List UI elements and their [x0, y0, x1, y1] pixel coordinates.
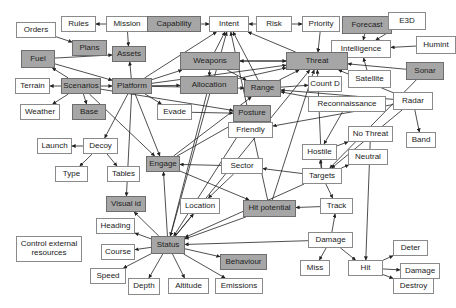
edge-decoy-to-type — [80, 154, 92, 166]
node-sector: Sector — [221, 158, 263, 174]
edge-status-to-visual_id — [134, 212, 159, 236]
edge-track-to-hit_potential — [296, 207, 320, 208]
edge-damage-to-status — [185, 241, 308, 245]
node-emissions: Emissions — [215, 278, 263, 294]
edge-sector-to-engage — [180, 164, 221, 165]
edge-scenarios-to-base — [83, 94, 86, 104]
node-type: Type — [55, 166, 88, 182]
node-status: Status — [151, 236, 185, 254]
node-plans: Plans — [72, 40, 107, 56]
node-hit: Hit — [348, 260, 383, 276]
node-radar: Radar — [393, 92, 433, 110]
edge-platform-to-assets — [130, 62, 132, 78]
edge-status-to-behaviour — [185, 249, 220, 257]
node-band: Band — [406, 132, 436, 148]
edge-status-to-altitude — [173, 254, 185, 278]
edge-hit-to-damage2 — [383, 269, 400, 270]
node-orders: Orders — [16, 22, 56, 38]
node-terrain: Terrain — [15, 78, 50, 94]
node-destroy: Destroy — [393, 278, 434, 294]
edge-targets-to-track — [326, 184, 333, 198]
node-evade: Evade — [157, 104, 192, 120]
node-base: Base — [72, 104, 106, 120]
edge-status-to-heading — [135, 233, 151, 239]
node-rules: Rules — [61, 16, 96, 32]
node-posture: Posture — [233, 105, 271, 122]
edge-hit_potential-to-status — [185, 217, 246, 239]
node-hostile: Hostile — [302, 144, 337, 160]
node-heading: Heading — [96, 218, 135, 234]
node-altitude: Altitude — [168, 278, 209, 294]
edge-satellite-to-intelligence — [364, 58, 367, 70]
node-mission: Mission — [106, 16, 148, 32]
edge-platform-to-decoy — [105, 94, 128, 138]
node-weapons: Weapons — [180, 52, 240, 70]
node-tables: Tables — [107, 166, 140, 182]
node-friendly: Friendly — [228, 122, 273, 138]
node-fuel: Fuel — [21, 50, 55, 68]
edge-status-to-depth — [149, 254, 163, 278]
edge-platform-to-evade — [145, 94, 161, 104]
node-scenarios: Scenarios — [61, 78, 101, 94]
edge-engage-to-hit_potential — [180, 171, 249, 200]
node-capability: Capability — [147, 16, 201, 32]
node-priority: Priority — [302, 16, 340, 32]
edge-reconnaissance-to-range — [281, 92, 308, 97]
node-weather: Weather — [20, 104, 60, 120]
node-damage2: Damage — [400, 263, 440, 279]
edge-priority-to-threat — [318, 32, 320, 52]
node-engage: Engage — [146, 156, 180, 172]
node-course: Course — [101, 244, 135, 260]
edge-humint-to-intelligence — [391, 46, 416, 47]
node-hit-potential: Hit potential — [243, 200, 296, 217]
edge-platform-to-weapons — [152, 70, 182, 80]
edge-reconnaissance-to-hostile — [324, 112, 342, 144]
edge-sonar-to-threat — [348, 64, 406, 69]
node-track: Track — [320, 198, 353, 214]
node-visual-id: Visual id — [106, 196, 146, 212]
node-behaviour: Behaviour — [220, 254, 267, 270]
edge-targets-to-neutral — [341, 165, 348, 168]
node-reconnaissance: Reconnaissance — [308, 96, 386, 112]
node-depth: Depth — [128, 278, 160, 295]
edge-orders-to-plans — [56, 37, 72, 42]
edge-hostile-to-no_threat — [337, 142, 348, 146]
edge-status-to-emissions — [184, 254, 226, 278]
edge-damage-to-hit — [341, 248, 356, 260]
node-control: Control external resources — [16, 236, 82, 262]
node-allocation: Allocation — [180, 76, 238, 94]
edge-range-to-count_d — [281, 85, 308, 87]
node-damage: Damage — [308, 232, 353, 248]
edge-threat-to-intent — [248, 32, 296, 52]
edge-radar-to-band — [415, 110, 420, 132]
node-assets: Assets — [112, 46, 146, 62]
node-threat: Threat — [286, 52, 348, 70]
node-range: Range — [244, 80, 281, 97]
node-satellite: Satellite — [348, 70, 391, 88]
edge-mission-to-assets — [128, 32, 129, 46]
node-speed: Speed — [90, 268, 126, 284]
node-no-threat: No Threat — [348, 126, 393, 142]
node-e3d: E3D — [388, 12, 426, 30]
node-miss: Miss — [300, 260, 330, 276]
node-risk: Risk — [256, 16, 292, 32]
node-forecast: Forecast — [342, 16, 392, 34]
edge-status-to-course — [135, 247, 151, 249]
node-location: Location — [180, 198, 220, 214]
edge-scenarios-to-fuel — [52, 68, 68, 78]
node-targets: Targets — [302, 168, 342, 184]
edge-damage-to-miss — [319, 248, 326, 260]
node-count-d: Count D — [308, 76, 342, 92]
node-sonar: Sonar — [406, 62, 444, 80]
edge-sector-to-location — [208, 174, 233, 198]
edge-hit-to-deter — [383, 256, 393, 260]
edge-scenarios-to-weather — [53, 94, 69, 104]
concept-diagram: OrdersRulesMissionCapabilityIntentRiskPr… — [0, 0, 456, 308]
edge-decoy-to-tables — [107, 154, 117, 166]
edge-weapons-to-intent — [215, 32, 225, 52]
edge-range-to-threat — [279, 70, 299, 80]
node-intent: Intent — [209, 16, 249, 32]
edge-damage-to-track — [332, 214, 335, 232]
node-humint: Humint — [416, 36, 456, 54]
node-launch: Launch — [37, 138, 72, 154]
